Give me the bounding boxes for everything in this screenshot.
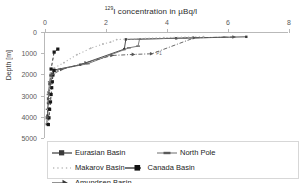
- y-axis-tick-mark: [41, 96, 44, 97]
- y-axis-tick-label: 1000: [21, 50, 41, 57]
- data-point: [150, 52, 154, 56]
- dash-line-marker-icon: [157, 148, 177, 158]
- legend-label: Amundsen Basin: [75, 179, 132, 183]
- legend-item-amundsen-basin[interactable]: Amundsen Basin: [52, 175, 132, 183]
- y-axis-tick-mark: [41, 32, 44, 33]
- data-point: [125, 38, 127, 40]
- legend-item-makarov-basin[interactable]: Makarov Basin: [52, 160, 125, 175]
- data-point: [116, 39, 118, 41]
- plot-area: 02468 P1: [44, 32, 288, 138]
- x-axis-tick-mark: [228, 29, 229, 33]
- data-point: [203, 36, 205, 38]
- y-axis-tick-mark: [41, 117, 44, 118]
- legend-label: Canada Basin: [148, 164, 195, 172]
- chart-title-text: I concentration in µBq/l: [113, 7, 197, 16]
- legend-item-north-pole[interactable]: North Pole: [157, 145, 242, 160]
- data-point: [53, 69, 56, 72]
- x-axis-tick-mark: [167, 29, 168, 33]
- square-filled-marker-icon: [125, 163, 145, 173]
- square-line-marker-icon: [52, 148, 72, 158]
- dotted-line-marker-icon: [52, 163, 72, 173]
- series-annotation: P1: [156, 51, 162, 56]
- plot-series-layer: [45, 33, 288, 138]
- x-axis-tick-label: 8: [287, 19, 291, 26]
- legend-label: North Pole: [180, 149, 215, 157]
- data-point: [53, 50, 56, 53]
- chart-title-superscript: 129: [105, 5, 113, 11]
- x-axis-tick-label: 6: [226, 19, 230, 26]
- x-axis-tick-label: 4: [165, 19, 169, 26]
- data-point: [163, 37, 165, 39]
- series-north-pole: [46, 37, 227, 109]
- chart-figure: 129I concentration in µBq/l Depth [m] 02…: [0, 0, 302, 183]
- data-point: [110, 41, 112, 43]
- data-point: [53, 67, 55, 69]
- data-point: [132, 53, 136, 57]
- chart-legend: Eurasian Basin North Pole Makarov Basin …: [47, 141, 299, 179]
- legend-label: Makarov Basin: [75, 164, 125, 172]
- series-canada-basin: [47, 48, 60, 127]
- data-point: [50, 93, 53, 96]
- y-axis-tick-mark: [41, 74, 44, 75]
- data-point: [232, 35, 236, 39]
- y-axis-tick-label: 0: [33, 29, 41, 36]
- series-svg: [45, 33, 289, 139]
- data-point: [102, 43, 104, 45]
- chart-title: 129I concentration in µBq/l: [0, 5, 302, 16]
- data-point: [245, 36, 247, 38]
- y-axis-tick-label: 4000: [21, 113, 41, 120]
- legend-item-eurasian-basin[interactable]: Eurasian Basin: [52, 145, 157, 160]
- legend-label: Eurasian Basin: [75, 149, 125, 157]
- data-point: [50, 67, 53, 70]
- data-point: [56, 48, 59, 51]
- y-axis-tick-label: 5000: [21, 135, 41, 142]
- y-axis-tick-label: 3000: [21, 92, 41, 99]
- data-point: [76, 54, 78, 56]
- legend-item-canada-basin[interactable]: Canada Basin: [125, 160, 230, 175]
- arrow-line-marker-icon: [52, 178, 72, 184]
- series-eurasian-basin: [46, 36, 248, 126]
- x-axis-tick-label: 2: [104, 19, 108, 26]
- y-axis-tick-mark: [41, 53, 44, 54]
- x-axis-tick-label: 0: [43, 19, 47, 26]
- x-axis-tick-mark: [106, 29, 107, 33]
- series-amundsen-basin: [46, 35, 236, 119]
- data-point: [47, 123, 50, 126]
- y-axis-tick-mark: [41, 138, 44, 139]
- x-axis-tick-mark: [289, 29, 290, 33]
- y-axis-title: Depth [m]: [5, 50, 17, 80]
- data-point: [49, 100, 52, 103]
- y-axis-tick-label: 2000: [21, 71, 41, 78]
- data-point: [90, 47, 92, 49]
- data-point: [63, 62, 65, 64]
- x-axis-tick-mark: [45, 29, 46, 33]
